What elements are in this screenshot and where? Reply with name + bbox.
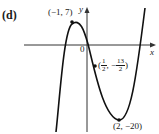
paren-close: ) [125, 60, 128, 70]
x-denominator: 2 [102, 66, 106, 73]
y-fraction: 132 [116, 58, 125, 73]
separator: , − [107, 60, 117, 70]
origin-label: 0 [80, 44, 85, 54]
y-denominator: 2 [119, 66, 123, 73]
local-max-label: (−1, 7) [48, 7, 73, 17]
y-axis-label: y [79, 4, 83, 14]
local-max-point [70, 20, 74, 24]
inflection-point [93, 64, 97, 68]
cubic-graph [0, 0, 159, 134]
inflection-label: (12, −132) [98, 58, 128, 73]
x-axis-label: x [150, 47, 154, 57]
y-axis-arrow-icon [85, 7, 90, 13]
local-min-label: (2, −20) [113, 121, 142, 131]
